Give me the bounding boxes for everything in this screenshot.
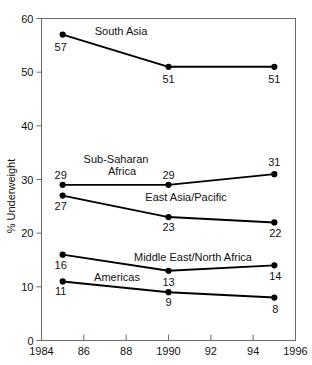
value-label-east-asia-pacific-1985: 27	[55, 200, 67, 212]
series-annotation-1: Sub-Saharan	[84, 153, 149, 165]
marker-americas-1985	[60, 278, 66, 284]
value-label-south-asia-1990: 51	[162, 73, 174, 85]
marker-south-asia-1985	[60, 31, 66, 37]
y-tick-label-20: 20	[21, 227, 33, 239]
marker-east-asia-pacific-1995	[271, 219, 277, 225]
series-annotation-4: Middle East/North Africa	[134, 251, 253, 263]
value-label-sub-saharan-africa-1995: 31	[268, 156, 280, 168]
x-tick-label-1994: 94	[247, 345, 259, 357]
value-label-americas-1990: 9	[165, 296, 171, 308]
marker-sub-saharan-africa-1990	[165, 182, 171, 188]
value-label-americas-1985: 11	[55, 285, 66, 297]
x-tick-label-1992: 92	[205, 345, 217, 357]
series-annotation-2: Africa	[108, 165, 137, 177]
y-tick-label-30: 30	[21, 174, 33, 186]
series-annotation-0: South Asia	[95, 25, 148, 37]
marker-middle-east-north-africa-1995	[271, 262, 277, 268]
value-label-east-asia-pacific-1990: 23	[162, 221, 174, 233]
x-tick-label-1990: 1990	[156, 345, 180, 357]
marker-east-asia-pacific-1990	[165, 214, 171, 220]
chart-container: 0102030405060 19848688199092941996 % Und…	[0, 0, 312, 365]
x-tick-label-1988: 88	[120, 345, 132, 357]
value-label-sub-saharan-africa-1990: 29	[162, 169, 174, 181]
value-label-south-asia-1995: 51	[268, 73, 280, 85]
y-tick-label-40: 40	[21, 120, 33, 132]
series-annotation-3: East Asia/Pacific	[145, 191, 227, 203]
y-tick-label-10: 10	[21, 281, 33, 293]
marker-east-asia-pacific-1985	[60, 193, 66, 199]
value-label-middle-east-north-africa-1990: 13	[162, 276, 174, 288]
y-tick-label-60: 60	[21, 13, 33, 25]
y-axis-title: % Underweight	[5, 159, 17, 234]
marker-sub-saharan-africa-1995	[271, 171, 277, 177]
marker-middle-east-north-africa-1985	[60, 252, 66, 258]
marker-americas-1990	[165, 289, 171, 295]
y-tick-label-50: 50	[21, 66, 33, 78]
marker-sub-saharan-africa-1985	[60, 182, 66, 188]
value-label-south-asia-1985: 57	[55, 41, 67, 53]
value-label-middle-east-north-africa-1995: 14	[269, 270, 281, 282]
series-annotation-5: Americas	[94, 271, 140, 283]
value-label-americas-1995: 8	[272, 303, 278, 315]
value-label-sub-saharan-africa-1985: 29	[55, 169, 67, 181]
x-tick-label-1986: 86	[78, 345, 90, 357]
value-label-east-asia-pacific-1995: 22	[269, 227, 281, 239]
marker-americas-1995	[271, 294, 277, 300]
marker-south-asia-1995	[271, 64, 277, 70]
value-label-middle-east-north-africa-1985: 16	[55, 259, 67, 271]
x-tick-label-1996: 1996	[283, 345, 307, 357]
underweight-line-chart: 0102030405060 19848688199092941996 % Und…	[0, 0, 312, 365]
marker-middle-east-north-africa-1990	[165, 268, 171, 274]
x-tick-label-1984: 1984	[29, 345, 53, 357]
marker-south-asia-1990	[165, 64, 171, 70]
